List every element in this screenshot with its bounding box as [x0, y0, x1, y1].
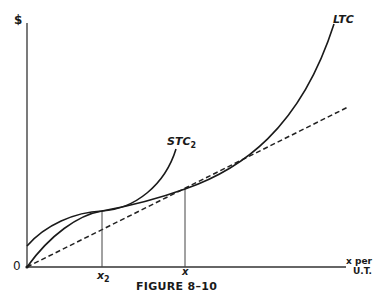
- origin-point: [25, 265, 28, 268]
- y-axis-label: $: [14, 13, 22, 27]
- stc2-label: STC2: [167, 135, 196, 150]
- x-axis-label: x per U.T.: [346, 256, 372, 276]
- x-axis-label-line1: x per: [346, 256, 372, 266]
- x-tick-label: x: [182, 266, 188, 277]
- stc-label-text: STC: [167, 135, 191, 148]
- stc-label-subscript: 2: [191, 141, 197, 150]
- tangent-ray-dashed: [27, 107, 348, 267]
- x-axis-label-line2: U.T.: [346, 266, 372, 276]
- ltc-label: LTC: [333, 13, 354, 26]
- x2-tick-subscript: 2: [104, 275, 110, 284]
- x2-tick-label: x2: [97, 269, 110, 284]
- origin-label: 0: [13, 259, 21, 273]
- figure-caption: FIGURE 8–10: [136, 280, 217, 293]
- cost-curves-diagram: [0, 0, 381, 303]
